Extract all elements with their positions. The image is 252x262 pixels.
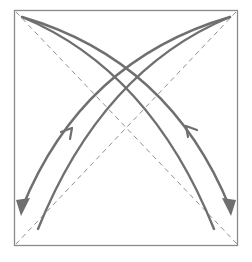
fold-diagram: [0, 0, 252, 262]
diagram-canvas: [0, 0, 252, 262]
